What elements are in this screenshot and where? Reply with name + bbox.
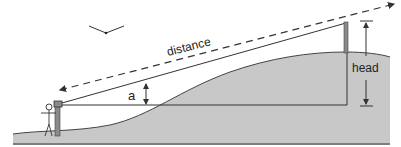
ground-profile (13, 52, 390, 145)
distance-label: distance (165, 34, 212, 58)
staff-pole (344, 22, 348, 53)
bird-icon (89, 26, 124, 34)
head-label: head (352, 61, 379, 75)
angle-arrow: a (128, 84, 146, 104)
head-measurement-diagram: distance a head (0, 0, 401, 147)
angle-label: a (128, 88, 136, 103)
